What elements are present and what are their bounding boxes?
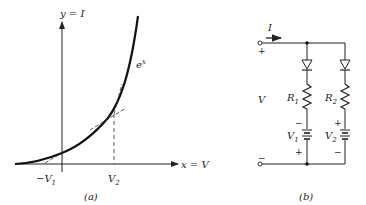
curve-label: ex bbox=[136, 58, 146, 70]
graph-exponential: y = I x = V ex −V1 V2 (a) bbox=[15, 8, 210, 202]
battery-2-label: V2 bbox=[325, 130, 337, 144]
battery-1-icon bbox=[302, 130, 312, 139]
y-axis-label: y = I bbox=[59, 8, 85, 19]
tick-label-neg-v1: −V1 bbox=[36, 173, 56, 187]
battery-1-label: V1 bbox=[287, 130, 299, 144]
resistor-1-label: R1 bbox=[286, 92, 299, 106]
caption-a: (a) bbox=[84, 191, 98, 202]
bottom-terminal-sign: − bbox=[258, 153, 266, 163]
terminal-top bbox=[258, 41, 262, 45]
tangent-line-v2 bbox=[90, 108, 126, 130]
battery-1-sign-top: − bbox=[295, 118, 303, 128]
battery-2-sign-bottom: − bbox=[334, 147, 342, 157]
tick-label-v2: V2 bbox=[108, 173, 120, 187]
voltage-label: V bbox=[258, 94, 267, 105]
caption-b: (b) bbox=[299, 191, 313, 202]
secant-line bbox=[114, 84, 122, 114]
figure-canvas: y = I x = V ex −V1 V2 (a) I + − V bbox=[0, 0, 366, 205]
battery-1-sign-bottom: + bbox=[295, 147, 303, 157]
circuit-diagram: I + − V R1 V1 − + bbox=[258, 22, 350, 202]
exponential-curve bbox=[15, 16, 138, 164]
top-terminal-sign: + bbox=[258, 46, 266, 56]
current-label: I bbox=[267, 22, 273, 33]
diode-1-icon bbox=[302, 60, 312, 70]
diode-2-icon bbox=[340, 60, 350, 70]
branch-1: R1 V1 − + bbox=[286, 43, 312, 164]
battery-2-icon bbox=[340, 130, 350, 139]
battery-2-sign-top: + bbox=[334, 118, 342, 128]
resistor-1-icon bbox=[303, 84, 311, 109]
x-axis-label: x = V bbox=[181, 159, 210, 170]
branch-2: R2 V2 + − bbox=[324, 43, 350, 164]
resistor-2-label: R2 bbox=[324, 92, 338, 106]
resistor-2-icon bbox=[341, 84, 349, 109]
